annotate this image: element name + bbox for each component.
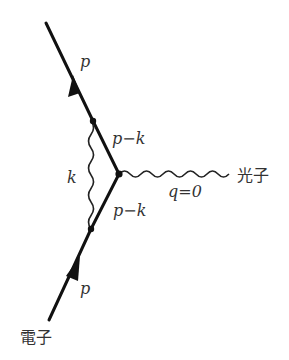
upper-arrow-icon	[68, 75, 80, 97]
external-photon-wavy-line	[119, 171, 229, 177]
upper-vertex-dot	[90, 118, 96, 124]
lower-vertex-dot	[88, 226, 94, 232]
virtual-photon-wavy-line	[89, 121, 94, 229]
incoming-momentum-label: p	[80, 279, 90, 298]
upper-internal-momentum-label: p−k	[112, 129, 145, 148]
lower-internal-momentum-label: p−k	[113, 201, 146, 220]
virtual-photon-momentum-label: k	[67, 168, 77, 187]
electron-label: 電子	[20, 328, 52, 347]
outgoing-electron-line	[46, 23, 93, 121]
photon-label: 光子	[237, 166, 269, 185]
external-photon-momentum-label: q=0	[168, 182, 202, 201]
feynman-diagram: p p−k k q=0 p−k p 光子 電子	[0, 0, 289, 360]
outgoing-momentum-label: p	[80, 52, 90, 71]
central-vertex-dot	[115, 170, 122, 177]
